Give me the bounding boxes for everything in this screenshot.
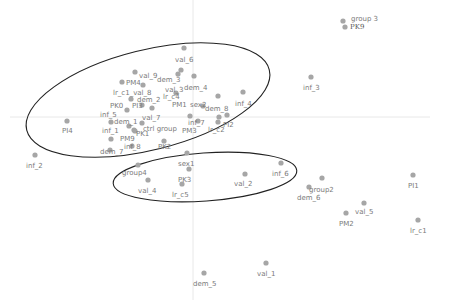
point-label: dem_6 [297, 194, 321, 202]
point-label: group4 [122, 169, 147, 177]
point-label: dem_1 [114, 118, 138, 126]
data-point [135, 162, 140, 167]
data-point [361, 200, 366, 205]
point-label: lr_c1 [410, 227, 427, 235]
point-label: val_1 [257, 270, 275, 278]
point-labels: group 3PK9val_6inf_3val_9PM4dem_3dem_4va… [26, 15, 427, 288]
data-point [319, 175, 324, 180]
point-label: dem_5 [193, 280, 217, 288]
point-label: inf_4 [235, 100, 252, 108]
data-point [343, 210, 348, 215]
point-label: lr_c4 [163, 93, 180, 101]
data-point [410, 172, 415, 177]
point-label: sex2 [190, 101, 206, 109]
data-point [124, 107, 129, 112]
point-label: dem_7 [100, 148, 124, 156]
point-label: PM9 [120, 135, 135, 143]
point-label: PK2 [158, 143, 171, 151]
data-point [215, 119, 220, 124]
point-label: PM4 [126, 79, 141, 87]
data-point [132, 69, 137, 74]
data-point [184, 150, 189, 155]
point-label: val_6 [175, 56, 194, 64]
data-point [215, 93, 220, 98]
data-point [216, 114, 221, 119]
point-label: val_9 [139, 72, 157, 80]
point-label: lr_c5 [172, 191, 189, 199]
data-point [32, 152, 37, 157]
data-point [240, 89, 245, 94]
data-point [64, 118, 69, 123]
point-label: PI3 [132, 102, 143, 110]
data-point [108, 136, 113, 141]
point-label: val_7 [142, 114, 160, 122]
data-point [191, 73, 196, 78]
point-label: inf_6 [272, 170, 289, 178]
data-point [181, 45, 186, 50]
point-label: sex1 [178, 160, 194, 168]
data-point [108, 119, 113, 124]
point-label: val_4 [138, 187, 157, 195]
point-label: group 3 [351, 15, 378, 23]
point-label: inf_3 [303, 84, 320, 92]
data-point [145, 177, 150, 182]
data-point [128, 96, 133, 101]
point-label: val_5 [355, 208, 373, 216]
point-label: PK1 [136, 130, 149, 138]
point-label: val_2 [234, 180, 252, 188]
point-label: dem_3 [157, 76, 181, 84]
data-point [308, 74, 313, 79]
data-point [119, 79, 124, 84]
scatter-plot: group 3PK9val_6inf_3val_9PM4dem_3dem_4va… [0, 0, 450, 300]
data-point [415, 217, 420, 222]
point-label: inf_1 [102, 127, 119, 135]
point-label: dem_4 [184, 84, 208, 92]
data-point [242, 171, 247, 176]
point-label: inf_8 [124, 143, 141, 151]
point-label: inf_7 [188, 119, 205, 127]
point-label: PK0 [110, 102, 123, 110]
ellipse-lower-group [112, 147, 299, 208]
point-label: dem_8 [205, 105, 229, 113]
data-point [224, 112, 229, 117]
point-label: PM1 [172, 101, 187, 109]
data-points [32, 18, 420, 275]
point-label: PI1 [408, 182, 419, 190]
point-label: PM2 [339, 220, 354, 228]
point-label: PK3 [178, 176, 191, 184]
data-point [201, 270, 206, 275]
data-point [342, 24, 347, 29]
point-label: PM3 [182, 127, 197, 135]
data-point [278, 160, 283, 165]
point-label: PI4 [62, 127, 73, 135]
point-label: group2 [309, 186, 334, 194]
data-point [149, 105, 154, 110]
data-point [263, 260, 268, 265]
point-label: lr_c2 [208, 126, 225, 134]
data-point [340, 18, 345, 23]
data-point [187, 113, 192, 118]
data-point [140, 82, 145, 87]
point-label: inf_2 [26, 162, 43, 170]
point-label: PK9 [350, 23, 364, 31]
